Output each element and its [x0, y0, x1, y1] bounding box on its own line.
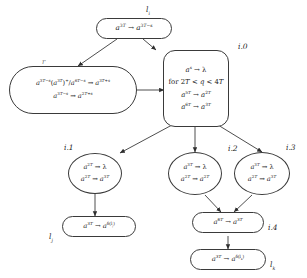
node-lj[interactable]: a3T → aδ(lj): [62, 216, 136, 237]
edge-i0-to-i3: [218, 125, 262, 152]
edge-i3-to-i4: [234, 195, 252, 212]
node-i3-line-1: a2T → a3T: [248, 176, 276, 184]
diagram-canvas: a3T → a3T−s li a3T−s(a3T)+/a6T−s → a3T+s…: [0, 0, 307, 278]
node-i1[interactable]: a2T → λ a2T → a3T: [68, 153, 122, 194]
node-i4-line-0: a6T → a3T: [213, 218, 242, 226]
node-i3-label: i.3: [286, 143, 296, 152]
node-i1-line-0: a2T → λ: [83, 164, 106, 172]
node-i4[interactable]: a6T → a3T: [192, 212, 264, 233]
node-li-line-0: a3T → a3T−s: [116, 24, 153, 32]
node-i0-line-1: for 2T < q < 4T: [169, 78, 224, 86]
node-i2-label: i.2: [228, 144, 238, 153]
node-i0[interactable]: as → λ for 2T < q < 4T a5T → a2T a6T → a…: [163, 50, 229, 127]
node-i3-line-0: a3T → λ: [250, 164, 273, 172]
diagram-edges: [0, 0, 307, 278]
edge-i0-to-i1: [120, 125, 172, 153]
node-i2[interactable]: a3T → λ a2T → a2T: [168, 152, 222, 195]
node-i2-line-1: a2T → a2T: [181, 176, 209, 184]
node-i0-label: i.0: [238, 42, 248, 51]
node-i0-line-3: a6T → a3T: [181, 103, 211, 111]
node-r-label: r: [42, 58, 45, 66]
node-i2-line-0: a3T → λ: [183, 164, 206, 172]
node-i1-line-1: a2T → a3T: [81, 176, 109, 184]
node-lk-label: lk: [270, 260, 275, 269]
node-i0-line-0: as → λ: [186, 66, 207, 74]
node-r[interactable]: a3T−s(a3T)+/a6T−s → a3T+s a3T−s → a2T+s: [9, 66, 137, 114]
node-lj-line-0: a3T → aδ(lj): [83, 222, 115, 230]
edge-top-to-left: [78, 39, 117, 66]
node-r-line-0: a3T−s(a3T)+/a6T−s → a3T+s: [36, 80, 110, 88]
node-i0-line-2: a5T → a2T: [181, 91, 211, 99]
node-lk-line-0: a3T → aδ(lk): [212, 255, 244, 263]
edge-i2-to-i4: [205, 195, 221, 212]
node-li-label: li: [146, 5, 150, 14]
node-r-line-1: a3T−s → a2T+s: [53, 93, 92, 101]
node-i1-label: i.1: [64, 143, 74, 152]
node-lk[interactable]: a3T → aδ(lk): [190, 249, 266, 270]
node-i4-label: i.4: [268, 223, 278, 232]
node-i3[interactable]: a3T → λ a2T → a3T: [234, 152, 290, 195]
edge-top-to-i0: [143, 39, 156, 50]
node-lj-label: lj: [49, 232, 53, 241]
node-li[interactable]: a3T → a3T−s: [96, 18, 172, 39]
